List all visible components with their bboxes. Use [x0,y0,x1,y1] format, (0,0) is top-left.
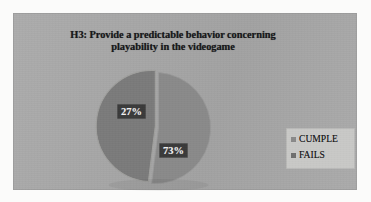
data-label-fails: 27% [118,105,145,118]
chart-title-line-1: H3: Provide a predictable behavior conce… [70,29,275,40]
pie-slice-cumple [152,73,211,184]
chart-plot-area: H3: Provide a predictable behavior conce… [13,13,357,190]
chart-legend: CUMPLE FAILS [286,128,355,169]
legend-label-cumple: CUMPLE [299,134,338,144]
pie-chart [93,63,223,193]
chart-title-line-2: playability in the videogame [57,41,289,53]
pie-slice-fails [96,70,155,181]
legend-swatch-icon [291,153,296,158]
chart-screenshot: H3: Provide a predictable behavior conce… [0,0,371,202]
data-label-cumple: 73% [160,144,187,157]
chart-title: H3: Provide a predictable behavior conce… [57,29,289,53]
legend-item-cumple[interactable]: CUMPLE [291,134,338,144]
pie-shadow [109,179,209,191]
legend-item-fails[interactable]: FAILS [291,150,325,160]
legend-label-fails: FAILS [299,150,325,160]
legend-swatch-icon [291,137,296,142]
